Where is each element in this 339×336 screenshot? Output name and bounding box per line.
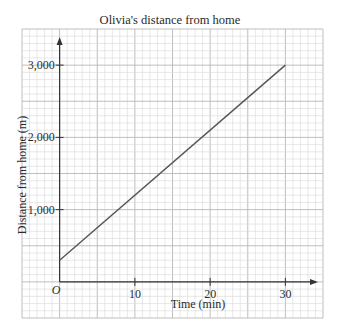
chart-title: Olivia's distance from home [100, 13, 241, 27]
x-tick-label: 30 [279, 287, 291, 301]
y-axis-label: Distance from home (m) [15, 116, 29, 234]
x-tick-label: 10 [129, 287, 141, 301]
line-chart: 1020301,0002,0003,000 Olivia's distance … [0, 0, 339, 336]
x-axis-label: Time (min) [171, 297, 226, 311]
y-tick-label: 3,000 [28, 58, 55, 72]
y-axis-arrow-icon [57, 37, 63, 45]
y-tick-label: 1,000 [28, 203, 55, 217]
x-axis-arrow-icon [310, 279, 318, 285]
origin-label: O [52, 283, 61, 297]
y-tick-label: 2,000 [28, 130, 55, 144]
